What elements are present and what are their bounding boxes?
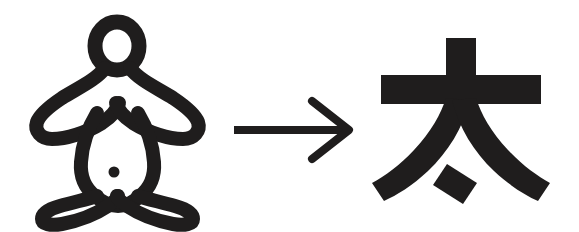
pictograph-navel-dot [109,167,120,178]
arrow-shaft [234,126,346,134]
illustration-canvas [0,0,579,232]
pictograph-evolution-page: An outlined pictograph of a person with … [0,0,579,232]
